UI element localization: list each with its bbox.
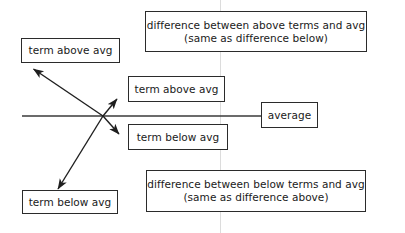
diagram-canvas: term above avg difference between above … (0, 0, 405, 233)
box-difference-below: difference between below terms and avg (… (146, 170, 366, 212)
arrow-to-term-below-left (58, 116, 103, 189)
box-term-above-avg-mid: term above avg (128, 76, 225, 102)
arrow-to-term-above-left (34, 69, 104, 116)
box-average-label: average (261, 102, 318, 128)
box-term-below-avg-left: term below avg (22, 190, 118, 214)
box-term-below-avg-mid: term below avg (128, 124, 228, 150)
box-term-above-avg-left: term above avg (21, 38, 120, 63)
box-difference-above: difference between above terms and avg (… (145, 11, 367, 52)
arrow-to-term-below-mid (103, 116, 119, 134)
arrow-to-term-above-mid (103, 99, 117, 116)
